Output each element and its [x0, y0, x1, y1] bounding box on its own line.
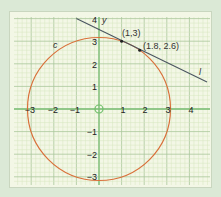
label-curve-c: c [53, 40, 58, 50]
x-tick: −2 [48, 105, 58, 115]
x-tick: 3 [165, 105, 170, 115]
x-tick: −1 [70, 105, 80, 115]
y-axis-label: y [101, 15, 107, 25]
y-tick: −3 [87, 172, 97, 182]
y-tick: 1 [92, 82, 97, 92]
y-tick: −2 [87, 150, 97, 160]
point-1.8-2.6 [138, 49, 141, 52]
chart-svg: (1,3) (1.8, 2.6) c l y −3 −2 −1 1 2 3 4 … [0, 0, 221, 197]
x-tick: 2 [142, 105, 147, 115]
x-tick: 4 [188, 105, 193, 115]
x-tick: 1 [120, 105, 125, 115]
label-point-b: (1.8, 2.6) [143, 41, 179, 51]
y-tick: 3 [92, 37, 97, 47]
grid [14, 17, 210, 185]
point-1-3 [120, 40, 123, 43]
y-tick: −1 [87, 127, 97, 137]
label-point-a: (1,3) [122, 28, 141, 38]
y-tick-labels: 4 3 2 1 −1 −2 −3 [87, 15, 97, 182]
y-tick: 4 [92, 15, 97, 25]
y-tick: 2 [92, 60, 97, 70]
x-tick: −3 [25, 105, 35, 115]
